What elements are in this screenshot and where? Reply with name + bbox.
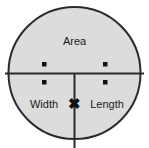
divide-dot-upper-left <box>42 62 47 67</box>
diagram-canvas: Area Width ✖ Length <box>0 0 149 148</box>
divide-dot-lower-right <box>103 80 108 85</box>
section-label-width: Width <box>30 98 58 110</box>
area-formula-circle-diagram: Area Width ✖ Length <box>0 0 149 148</box>
section-label-length: Length <box>90 98 124 110</box>
multiply-icon: ✖ <box>68 95 81 112</box>
section-label-area: Area <box>63 35 87 47</box>
divide-dot-upper-right <box>103 62 108 67</box>
divide-dot-lower-left <box>42 80 47 85</box>
